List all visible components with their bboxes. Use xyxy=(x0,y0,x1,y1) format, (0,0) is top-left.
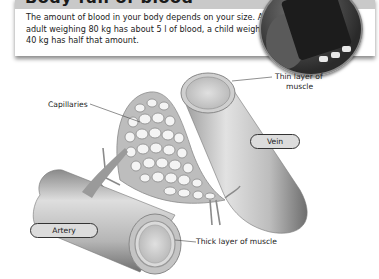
vein-label: Vein xyxy=(250,134,300,149)
artery-label: Artery xyxy=(30,223,98,238)
capillaries-label: Capillaries xyxy=(48,100,88,109)
thick-muscle-label: Thick layer of muscle xyxy=(196,237,277,246)
thin-muscle-label-line1: Thin layer of xyxy=(275,72,323,81)
vein-vessel xyxy=(181,73,307,233)
thin-muscle-label-line2: muscle xyxy=(286,82,313,91)
